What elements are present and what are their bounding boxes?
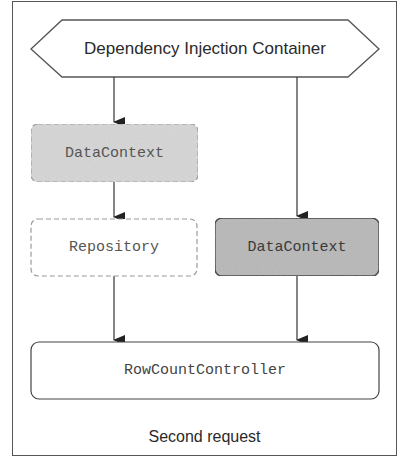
datacontext-new-box xyxy=(215,218,379,276)
repository-box xyxy=(31,219,197,276)
datacontext-stale-box xyxy=(31,124,198,182)
di-container-shape xyxy=(31,20,379,77)
rowcountcontroller-box xyxy=(31,342,379,399)
diagram-canvas xyxy=(0,0,406,461)
